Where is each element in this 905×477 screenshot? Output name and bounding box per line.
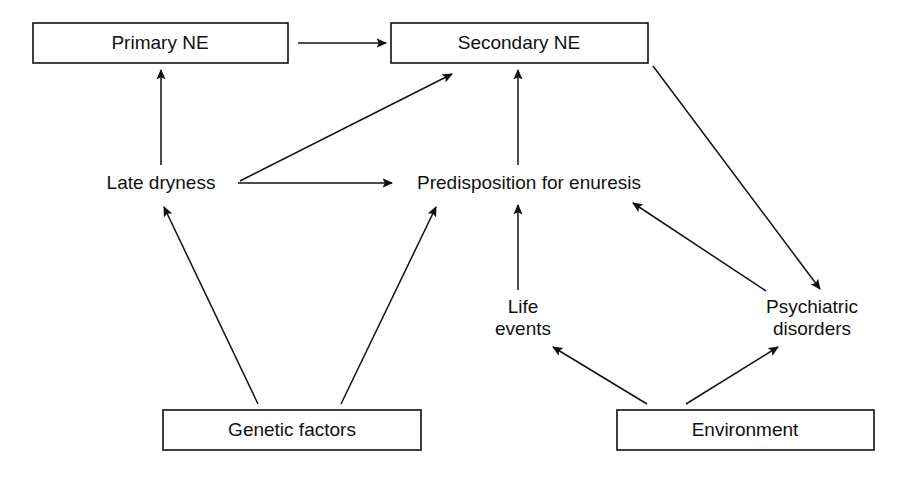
secondary-ne-label: Secondary NE (458, 32, 581, 53)
edge-late-dryness-to-secondary (240, 74, 452, 181)
node-environment[interactable]: Environment (617, 410, 874, 450)
node-psychiatric-disorders[interactable]: Psychiatric disorders (766, 296, 858, 339)
edge-environment-to-psychiatric (686, 347, 778, 404)
environment-label: Environment (692, 419, 799, 440)
node-genetic-factors[interactable]: Genetic factors (163, 410, 421, 450)
node-predisposition[interactable]: Predisposition for enuresis (417, 172, 641, 193)
flowchart-svg: Primary NE Secondary NE Late dryness Pre… (0, 0, 905, 477)
predisposition-label: Predisposition for enuresis (417, 172, 641, 193)
node-secondary-ne[interactable]: Secondary NE (391, 23, 648, 63)
edge-psychiatric-to-predisposition (633, 203, 766, 291)
node-late-dryness[interactable]: Late dryness (107, 172, 216, 193)
node-primary-ne[interactable]: Primary NE (33, 23, 288, 63)
psychiatric-disorders-label-line1: Psychiatric (766, 296, 858, 317)
late-dryness-label: Late dryness (107, 172, 216, 193)
primary-ne-label: Primary NE (111, 32, 208, 53)
edge-genetic-to-predisposition (341, 207, 436, 404)
node-layer: Primary NE Secondary NE Late dryness Pre… (33, 23, 874, 450)
edge-layer (161, 43, 820, 404)
life-events-label-line1: Life (508, 296, 539, 317)
edge-secondary-to-psychiatric (653, 66, 820, 289)
genetic-factors-label: Genetic factors (228, 419, 356, 440)
edge-environment-to-life-events (553, 347, 647, 404)
psychiatric-disorders-label-line2: disorders (773, 318, 851, 339)
diagram-canvas: Primary NE Secondary NE Late dryness Pre… (0, 0, 905, 477)
node-life-events[interactable]: Life events (495, 296, 551, 339)
edge-genetic-to-late-dryness (164, 207, 258, 404)
life-events-label-line2: events (495, 318, 551, 339)
